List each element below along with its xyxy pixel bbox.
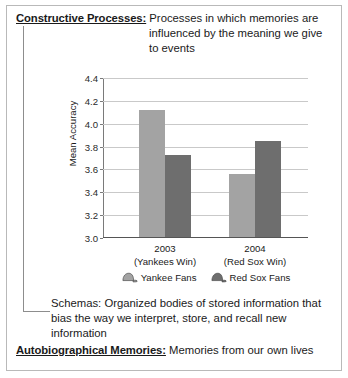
chart-legend: Yankee FansRed Sox Fans — [103, 272, 308, 283]
y-axis-tick-label: 3.4 — [85, 187, 98, 198]
y-axis-tick-mark — [100, 124, 103, 125]
y-axis-tick-label: 3.6 — [85, 164, 98, 175]
glossary-entry-constructive-processes: Constructive Processes: Processes in whi… — [16, 11, 328, 57]
y-axis-tick-label: 4.4 — [85, 73, 98, 84]
x-axis-year: 2003 — [119, 243, 211, 256]
y-axis-line — [103, 78, 104, 238]
entry-definition: Processes in which memories are influenc… — [149, 12, 322, 54]
y-axis-tick-mark — [100, 78, 103, 79]
x-axis-year: 2004 — [209, 243, 301, 256]
textbook-figure-page: Constructive Processes: Processes in whi… — [0, 0, 348, 378]
entry-term: Constructive Processes: — [16, 12, 146, 24]
y-axis-tick-label: 3.8 — [85, 141, 98, 152]
glossary-entry-schemas: Schemas: Organized bodies of stored info… — [51, 296, 326, 342]
y-axis-tick-mark — [100, 147, 103, 148]
bar-chart: Mean Accuracy 3.03.23.43.63.84.04.24.4 2… — [40, 76, 320, 288]
y-axis-tick-mark — [100, 238, 103, 239]
y-axis-tick-label: 3.0 — [85, 233, 98, 244]
entry-line: Constructive Processes: Processes in whi… — [16, 11, 328, 57]
legend-item-red-sox-fans: Red Sox Fans — [210, 272, 291, 283]
x-axis-line — [103, 237, 308, 238]
gridline — [103, 101, 308, 102]
baseball-cap-icon — [121, 272, 138, 283]
y-axis-tick-mark — [100, 192, 103, 193]
legend-item-yankee-fans: Yankee Fans — [121, 272, 197, 283]
entry-definition: Memories from our own lives — [169, 344, 313, 356]
x-axis-sublabel: (Red Sox Win) — [209, 256, 301, 269]
gridline — [103, 78, 308, 79]
entry-term: Schemas: — [51, 297, 101, 309]
bar-2003-yankee-fans — [139, 110, 165, 237]
bar-2004-yankee-fans — [229, 174, 255, 237]
x-axis-group-label: 2004(Red Sox Win) — [209, 243, 301, 268]
y-axis-label: Mean Accuracy — [67, 89, 78, 179]
entry-term: Autobiographical Memories: — [16, 344, 166, 356]
bar-2004-red-sox-fans — [255, 141, 281, 237]
x-axis-labels: 2003(Yankees Win)2004(Red Sox Win) — [103, 241, 308, 275]
x-axis-group-label: 2003(Yankees Win) — [119, 243, 211, 268]
baseball-cap-icon — [210, 272, 227, 283]
y-axis-tick-mark — [100, 101, 103, 102]
bar-2003-red-sox-fans — [165, 155, 191, 237]
legend-label: Yankee Fans — [141, 272, 197, 283]
gridline — [103, 124, 308, 125]
y-axis-tick-label: 3.2 — [85, 210, 98, 221]
y-axis-tick-label: 4.2 — [85, 95, 98, 106]
x-axis-sublabel: (Yankees Win) — [119, 256, 211, 269]
y-axis-tick-mark — [100, 215, 103, 216]
y-axis-tick-mark — [100, 169, 103, 170]
plot-area: 3.03.23.43.63.84.04.24.4 — [103, 78, 308, 238]
legend-label: Red Sox Fans — [230, 272, 291, 283]
y-axis-tick-label: 4.0 — [85, 118, 98, 129]
glossary-entry-autobiographical-memories: Autobiographical Memories: Memories from… — [16, 343, 332, 358]
